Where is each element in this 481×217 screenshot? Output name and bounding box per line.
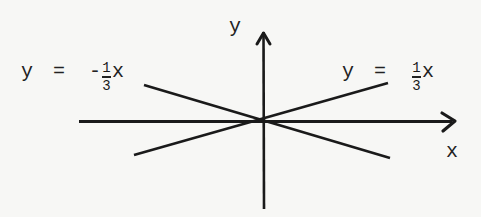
fraction-denominator: 3 — [412, 79, 420, 93]
fraction-numerator: 1 — [102, 61, 110, 75]
equation-equals: = — [53, 62, 65, 82]
equation-positive-slope: y = 1 3 x — [342, 54, 434, 90]
y-axis-label: y — [229, 17, 241, 37]
equation-lhs: y — [342, 62, 354, 82]
diagram-canvas: y x y = - 1 3 x y = 1 3 x — [0, 0, 481, 217]
fraction: 1 3 — [102, 61, 111, 93]
fraction: 1 3 — [412, 61, 421, 93]
equation-variable: x — [422, 62, 434, 82]
x-axis-label: x — [446, 142, 458, 162]
equation-sign: - — [89, 62, 101, 82]
equation-negative-slope: y = - 1 3 x — [21, 54, 124, 90]
equation-equals: = — [374, 62, 386, 82]
equation-lhs: y — [21, 62, 33, 82]
fraction-numerator: 1 — [412, 61, 420, 75]
equation-variable: x — [112, 62, 124, 82]
fraction-denominator: 3 — [102, 79, 110, 93]
